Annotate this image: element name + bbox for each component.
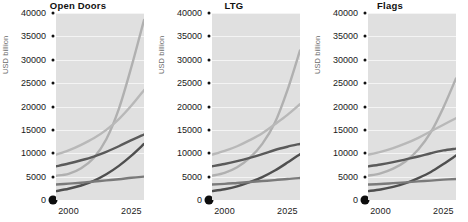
y-tick-dot [364,128,367,131]
y-tick-label: 5000 [158,172,202,182]
y-tick-label: 10000 [2,148,46,158]
plot-panel [212,13,300,200]
x-tick-label: 2000 [214,206,235,216]
y-tick-label: 30000 [314,55,358,65]
facet-ltg: LTGUSD billion05000100001500020000250003… [156,0,312,222]
x-tick-label: 2025 [433,206,454,216]
series-layer [212,13,300,200]
y-tick-label: 40000 [2,8,46,18]
y-tick-dot [52,152,55,155]
line-series-1 [56,20,144,176]
y-tick-dot [208,128,211,131]
y-tick-label: 5000 [314,172,358,182]
y-tick-label: 15000 [314,125,358,135]
y-tick-label: 25000 [158,78,202,88]
y-tick-dot [208,58,211,61]
y-tick-dot [208,12,211,15]
y-tick-label: 40000 [314,8,358,18]
x-tick-label: 2025 [121,206,142,216]
x-tick-label: 2025 [277,206,298,216]
y-tick-label: 0 [2,195,46,205]
y-tick-dot [52,175,55,178]
facet-open-doors: Open DoorsUSD billion0500010000150002000… [0,0,156,222]
x-tick-label: 2000 [58,206,79,216]
y-tick-dot [52,128,55,131]
y-tick-label: 20000 [158,102,202,112]
y-tick-dot [52,105,55,108]
y-tick-dot [364,35,367,38]
y-tick-label: 0 [158,195,202,205]
y-tick-dot [52,58,55,61]
y-tick-label: 40000 [158,8,202,18]
y-tick-dot [208,82,211,85]
x-tick-label: 2000 [370,206,391,216]
facet-flags: FlagsUSD billion050001000015000200002500… [312,0,468,222]
y-tick-dot [364,12,367,15]
y-tick-dot [364,175,367,178]
y-tick-dot [364,82,367,85]
y-tick-dot [208,152,211,155]
small-multiples-chart: Open DoorsUSD billion0500010000150002000… [0,0,468,222]
y-tick-label: 0 [314,195,358,205]
y-tick-label: 35000 [158,31,202,41]
y-tick-dot [364,152,367,155]
series-layer [56,13,144,200]
y-tick-dot [208,105,211,108]
y-tick-label: 30000 [2,55,46,65]
y-tick-label: 25000 [2,78,46,88]
plot-panel [368,13,456,200]
y-tick-dot [364,105,367,108]
series-layer [368,13,456,200]
y-tick-dot [208,175,211,178]
plot-panel [56,13,144,200]
y-tick-dot [52,12,55,15]
y-tick-label: 20000 [2,102,46,112]
y-tick-label: 25000 [314,78,358,88]
line-series-2 [368,118,456,154]
y-tick-label: 35000 [2,31,46,41]
line-series-2 [56,90,144,155]
y-tick-label: 15000 [2,125,46,135]
y-tick-label: 20000 [314,102,358,112]
y-tick-label: 15000 [158,125,202,135]
y-tick-label: 35000 [314,31,358,41]
y-tick-dot [364,58,367,61]
y-tick-dot [52,35,55,38]
y-tick-label: 5000 [2,172,46,182]
line-series-1 [368,78,456,175]
y-tick-dot [52,82,55,85]
y-tick-dot [208,35,211,38]
y-tick-label: 30000 [158,55,202,65]
y-tick-label: 10000 [158,148,202,158]
y-tick-label: 10000 [314,148,358,158]
